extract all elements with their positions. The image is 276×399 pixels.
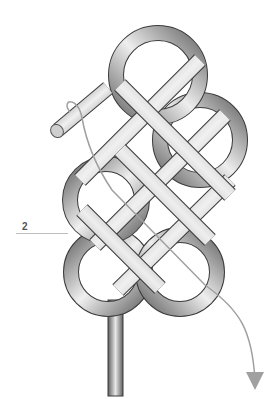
step-label: 2 bbox=[22, 221, 28, 232]
rope-end-whipped bbox=[48, 88, 108, 140]
knot-illustration bbox=[0, 0, 276, 399]
leader-line bbox=[16, 233, 68, 234]
arrowhead-icon bbox=[246, 372, 264, 390]
